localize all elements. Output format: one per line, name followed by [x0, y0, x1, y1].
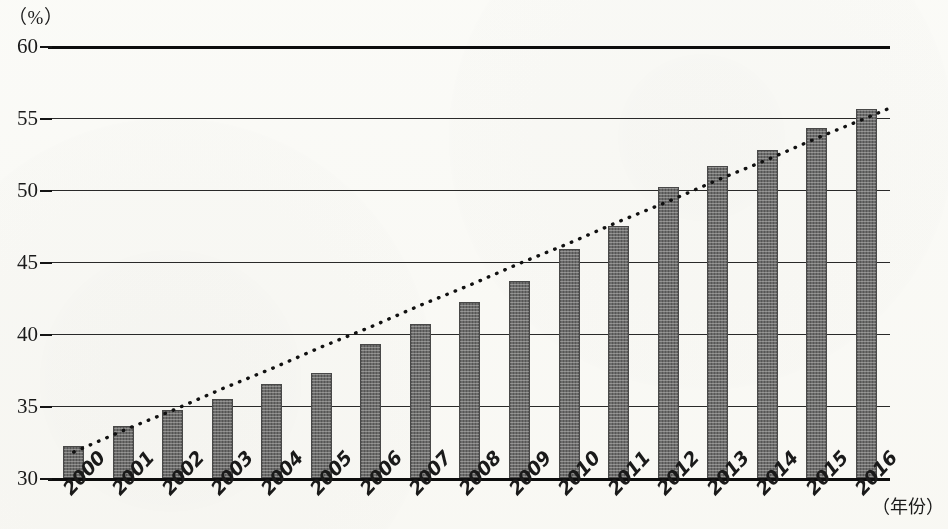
bar	[509, 281, 530, 478]
y-axis-tick-mark	[40, 334, 52, 336]
bar	[608, 226, 629, 478]
bar	[658, 187, 679, 478]
y-axis-tick-label: 50	[4, 180, 38, 201]
y-axis-tick-mark	[40, 46, 52, 48]
y-axis-tick-label: 45	[4, 252, 38, 273]
bar	[459, 302, 480, 478]
y-axis-tick-mark	[40, 478, 52, 480]
y-axis-tick-mark	[40, 118, 52, 120]
bar	[806, 128, 827, 478]
gridline-55	[48, 118, 890, 119]
bar	[410, 324, 431, 478]
x-axis-title: （年份）	[872, 492, 944, 518]
bar-chart: （%） 30354045505560 200020012002200320042…	[0, 0, 948, 529]
bar	[559, 249, 580, 478]
y-axis-tick-label: 60	[4, 36, 38, 57]
bar	[856, 109, 877, 478]
y-axis-tick-mark	[40, 406, 52, 408]
y-axis-tick-label: 55	[4, 108, 38, 129]
bar	[757, 150, 778, 478]
y-axis-tick-label: 30	[4, 468, 38, 489]
y-axis-tick-label: 40	[4, 324, 38, 345]
y-axis-unit-label: （%）	[8, 2, 63, 29]
y-axis-tick-mark	[40, 262, 52, 264]
bar	[707, 166, 728, 478]
gridline-60	[48, 46, 890, 49]
y-axis-tick-mark	[40, 190, 52, 192]
y-axis-tick-label: 35	[4, 396, 38, 417]
